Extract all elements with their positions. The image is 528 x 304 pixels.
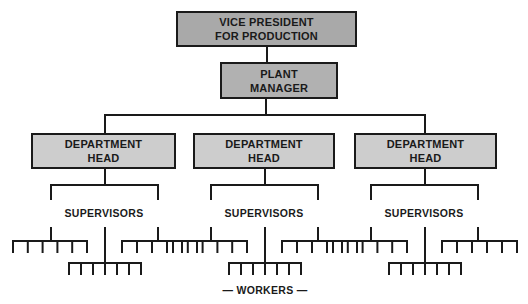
supervisor-worker-trees (0, 0, 528, 304)
